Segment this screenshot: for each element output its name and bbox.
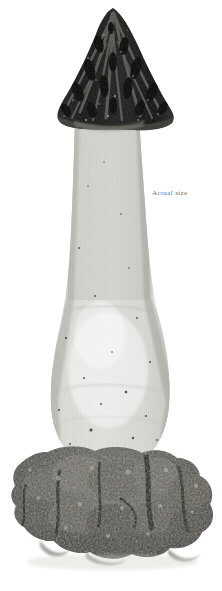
- mushroom-specimen-illustration: [0, 0, 222, 591]
- specimen-plate: Actual size: [0, 0, 222, 591]
- actual-size-caption: Actual size: [152, 190, 188, 197]
